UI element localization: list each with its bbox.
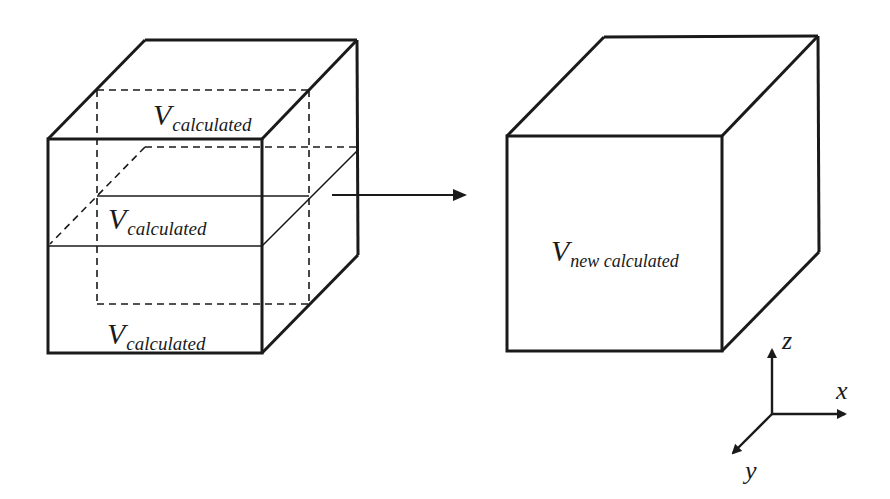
label-top-layer: Vcalculated — [153, 100, 251, 130]
label-bottom-layer: Vcalculated — [107, 319, 205, 349]
z-axis-label: z — [782, 328, 792, 354]
y-axis-label: y — [745, 458, 757, 484]
coordinate-axes — [733, 350, 845, 453]
label-new-volume: Vnew calculated — [551, 236, 679, 266]
diagram-lines — [0, 0, 890, 499]
diagram-canvas: Vcalculated Vcalculated Vcalculated Vnew… — [0, 0, 890, 499]
x-axis-label: x — [836, 378, 848, 404]
y-axis — [733, 414, 772, 453]
label-middle-layer: Vcalculated — [108, 204, 206, 234]
left-cube — [48, 40, 358, 353]
right-cube — [507, 36, 819, 351]
